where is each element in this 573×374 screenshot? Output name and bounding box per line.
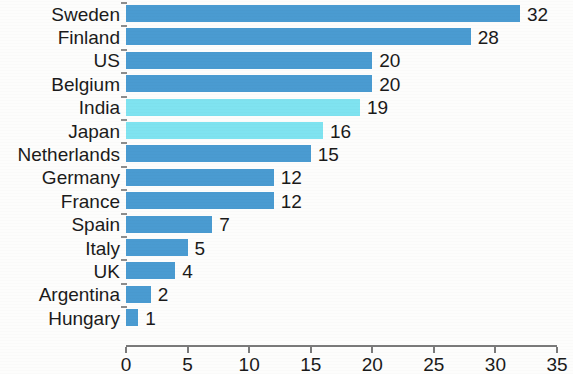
- y-axis-tick: [121, 283, 127, 285]
- x-axis-tick-label: 25: [423, 354, 444, 374]
- category-label: Hungary: [0, 308, 120, 330]
- y-axis-tick: [121, 189, 127, 191]
- bar: [126, 75, 372, 92]
- category-label: UK: [0, 261, 120, 283]
- x-axis-tick: [125, 347, 127, 353]
- x-axis-tick: [187, 347, 189, 353]
- bar: [126, 52, 372, 69]
- category-label: Spain: [0, 214, 120, 236]
- x-axis-tick: [433, 347, 435, 353]
- bar: [126, 99, 360, 116]
- bar: [126, 192, 274, 209]
- bar: [126, 239, 188, 256]
- category-label: Finland: [0, 27, 120, 49]
- x-axis-line: [126, 345, 557, 347]
- category-label: Sweden: [0, 4, 120, 26]
- bar-value-label: 12: [281, 167, 302, 189]
- y-axis-tick: [121, 213, 127, 215]
- y-axis-tick: [121, 49, 127, 51]
- y-axis-tick: [121, 166, 127, 168]
- bar-value-label: 15: [318, 144, 339, 166]
- y-axis-tick: [121, 259, 127, 261]
- y-axis-tick: [121, 119, 127, 121]
- y-axis-tick: [121, 25, 127, 27]
- bar-value-label: 20: [379, 74, 400, 96]
- bar: [126, 122, 323, 139]
- x-axis-tick: [248, 347, 250, 353]
- bar-value-label: 2: [158, 284, 169, 306]
- category-label: Italy: [0, 238, 120, 260]
- category-label: Germany: [0, 167, 120, 189]
- bar: [126, 309, 138, 326]
- x-axis-tick-label: 15: [300, 354, 321, 374]
- category-label: US: [0, 50, 120, 72]
- bar: [126, 169, 274, 186]
- category-label: Argentina: [0, 284, 120, 306]
- bar-value-label: 5: [195, 238, 206, 260]
- y-axis-tick: [121, 142, 127, 144]
- x-axis-tick: [494, 347, 496, 353]
- x-axis-tick-label: 20: [362, 354, 383, 374]
- bar-chart: Sweden32Finland28US20Belgium20India19Jap…: [0, 0, 573, 374]
- x-axis-tick-label: 5: [182, 354, 193, 374]
- bar-value-label: 16: [330, 121, 351, 143]
- bar-value-label: 12: [281, 191, 302, 213]
- y-axis-tick: [121, 306, 127, 308]
- x-axis-tick-label: 0: [121, 354, 132, 374]
- bar: [126, 286, 151, 303]
- bar: [126, 5, 520, 22]
- bar-value-label: 32: [527, 4, 548, 26]
- bar-value-label: 19: [367, 97, 388, 119]
- category-label: France: [0, 191, 120, 213]
- category-label: India: [0, 97, 120, 119]
- bar: [126, 145, 311, 162]
- bar: [126, 216, 212, 233]
- category-label: Netherlands: [0, 144, 120, 166]
- x-axis-tick: [556, 347, 558, 353]
- bar-value-label: 28: [478, 27, 499, 49]
- x-axis-tick: [371, 347, 373, 353]
- category-label: Belgium: [0, 74, 120, 96]
- bar-value-label: 4: [182, 261, 193, 283]
- x-axis-tick-label: 35: [546, 354, 567, 374]
- bar-value-label: 20: [379, 50, 400, 72]
- category-label: Japan: [0, 121, 120, 143]
- y-axis-tick: [121, 96, 127, 98]
- bar: [126, 262, 175, 279]
- bar: [126, 28, 471, 45]
- bar-value-label: 1: [145, 308, 156, 330]
- y-axis-tick: [121, 72, 127, 74]
- x-axis-tick: [310, 347, 312, 353]
- bar-value-label: 7: [219, 214, 230, 236]
- x-axis-tick-label: 10: [239, 354, 260, 374]
- x-axis-tick-label: 30: [485, 354, 506, 374]
- y-axis-tick: [121, 236, 127, 238]
- y-axis-tick: [121, 2, 127, 4]
